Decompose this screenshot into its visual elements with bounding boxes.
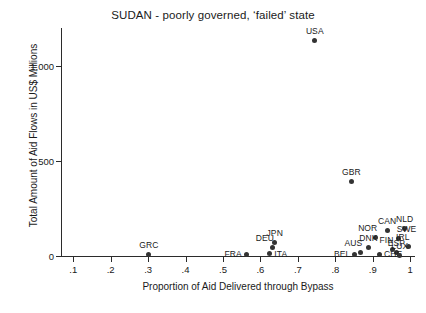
x-tick-label: .8 [323,264,347,275]
data-point-label: GBR [342,167,361,177]
data-point [377,252,382,257]
data-point [397,253,402,258]
x-tick-label: .6 [248,264,272,275]
x-tick-label: .3 [136,264,160,275]
x-tick-mark [260,257,261,262]
x-tick-label: .4 [174,264,198,275]
y-tick-mark [56,66,61,67]
y-axis-title: Total Amount of Aid Flows in US$ Million… [28,21,39,251]
data-point [349,179,354,184]
data-point-label: LUX [391,241,408,251]
data-point-label: CAN [378,216,396,226]
plot-area: USAGBRNLDCANSWENORJPNDEUIRLDNKFINAUSESPI… [62,28,414,256]
data-point-label: USA [306,26,324,36]
x-tick-mark [111,257,112,262]
data-point-label: NOR [358,223,377,233]
x-tick-mark [186,257,187,262]
y-tick-mark [56,256,61,257]
data-point [358,250,363,255]
data-point [244,252,249,257]
data-point [267,251,272,256]
data-point-label: GRC [139,240,158,250]
x-tick-mark [73,257,74,262]
y-tick-mark [56,161,61,162]
data-point-label: FRA [224,249,241,259]
x-tick-mark [373,257,374,262]
x-tick-label: .7 [286,264,310,275]
x-tick-mark [298,257,299,262]
x-tick-label: 1 [398,264,422,275]
y-tick-label: 500 [38,156,54,167]
x-tick-label: .9 [361,264,385,275]
data-point-label: BEL [334,249,350,259]
x-tick-mark [410,257,411,262]
data-point-label: DEU [256,233,274,243]
data-point [146,252,151,257]
x-axis-title: Proportion of Aid Delivered through Bypa… [62,281,414,292]
data-point [312,38,317,43]
y-tick-label: 0 [49,251,54,262]
x-tick-label: .1 [61,264,85,275]
data-point-label: NLD [396,214,413,224]
data-point-label: AUS [344,238,362,248]
data-point-label: ITA [274,249,287,259]
data-point [366,245,371,250]
x-tick-label: .5 [211,264,235,275]
chart-title: SUDAN - poorly governed, ‘failed’ state [0,9,426,21]
x-tick-label: .2 [99,264,123,275]
scatter-plot-figure: SUDAN - poorly governed, ‘failed’ state … [0,0,426,313]
data-point [385,228,390,233]
x-tick-mark [148,257,149,262]
